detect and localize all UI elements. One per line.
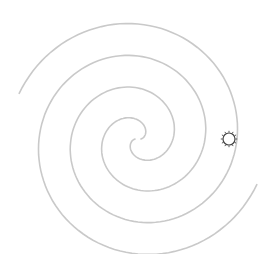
- diagram-canvas: Spiral diagram with sun marker: [0, 0, 277, 254]
- sun-icon: [221, 131, 237, 147]
- spiral-svg: [0, 0, 277, 254]
